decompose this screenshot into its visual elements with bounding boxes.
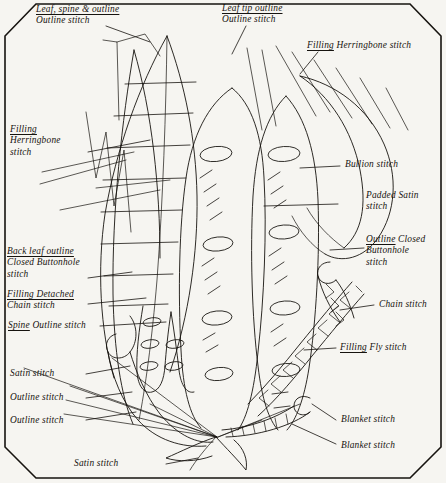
label-filling-detached-chain: Filling Detached Chain stitch [7,289,74,312]
label-fhr-word-filling: Filling [307,40,334,50]
label-ocb-line1: Outline Closed [366,234,425,245]
label-outline-closed-buttonhole: Outline Closed Buttonhole stitch [366,234,425,268]
label-ocb-line3: stitch [366,257,425,268]
bullion-leaf-b [252,96,319,430]
label-outline-left-1: Outline stitch [10,392,64,403]
label-fdc-line1: Filling Detached [7,289,74,300]
label-filling-herringbone-left: Filling Herringbone stitch [10,124,61,158]
label-blanket-lower: Blanket stitch [341,440,395,451]
label-so-word-spine: Spine [8,320,30,330]
label-blanket-upper-text: Blanket stitch [341,414,395,425]
detached-chain-leaflet [137,306,194,392]
label-ff-word-rest: Fly stitch [369,342,406,352]
label-padded-satin-line1: Padded Satin [366,190,419,201]
label-satin-bottom-text: Satin stitch [74,458,118,469]
bullion-leaf-a [179,88,265,430]
label-leaf-spine-outline-line1: Leaf, spine & outline [36,4,119,15]
label-outline-left-1-text: Outline stitch [10,392,64,403]
label-fhl-line1: Filling [10,124,61,135]
herringbone-filling-left [40,152,170,210]
label-leaf-tip-outline-line1: Leaf tip outline [222,3,283,14]
label-blanket-lower-text: Blanket stitch [341,440,395,451]
label-leaf-tip-outline: Leaf tip outline Outline stitch [222,3,283,26]
label-filling-herringbone-right-text: Filling Herringbone stitch [307,40,411,51]
label-leaf-spine-outline: Leaf, spine & outline Outline stitch [36,4,119,27]
label-bullion-stitch-text: Bullion stitch [345,159,398,170]
blanket-stitch-curl [222,396,310,437]
label-fhr-word-rest: Herringbone stitch [336,40,411,50]
label-back-leaf-outline: Back leaf outline Closed Buttonhole stit… [7,246,80,280]
label-ocb-word-closed: Closed [398,234,425,244]
base-calyx [24,358,300,470]
label-satin-left: Satin stitch [10,368,54,379]
label-filling-fly-text: Filling Fly stitch [340,342,407,353]
back-leaf-left [101,36,197,420]
label-spine-outline: Spine Outline stitch [8,320,86,331]
diagram-sheet: .s{fill:none;stroke:#16130f;stroke-width… [0,0,446,483]
label-so-word-rest: Outline stitch [32,320,86,330]
label-satin-bottom: Satin stitch [74,458,118,469]
stitch-marks-leaf-b [268,145,301,408]
label-chain-stitch: Chain stitch [379,299,427,310]
label-blo-line2: Closed Buttonhole [7,257,80,268]
label-blanket-upper: Blanket stitch [341,414,395,425]
label-bullion-stitch: Bullion stitch [345,159,398,170]
label-outline-left-2: Outline stitch [10,415,64,426]
label-chain-stitch-text: Chain stitch [379,299,427,310]
label-outline-left-2-text: Outline stitch [10,415,64,426]
label-blo-line1: Back leaf outline [7,246,80,257]
label-filling-herringbone-right: Filling Herringbone stitch [307,40,411,51]
label-ocb-line2: Buttonhole [366,245,425,256]
label-spine-outline-text: Spine Outline stitch [8,320,86,331]
label-fhl-line2: Herringbone [10,135,61,146]
label-fdc-line2: Chain stitch [7,300,74,311]
label-satin-left-text: Satin stitch [10,368,54,379]
label-leaf-spine-outline-line2: Outline stitch [36,15,119,26]
stitch-marks-leaf-a [199,145,233,382]
leader-lines [86,26,374,464]
label-fhl-line3: stitch [10,147,61,158]
label-filling-fly: Filling Fly stitch [340,342,407,353]
label-blo-line3: stitch [7,269,80,280]
label-padded-satin-line2: stitch [366,201,419,212]
label-ff-word-filling: Filling [340,342,367,352]
chain-ovals [140,317,185,372]
left-curled-tendril [106,316,213,446]
label-padded-satin: Padded Satin stitch [366,190,419,213]
label-ocb-word-outline: Outline [366,234,396,244]
label-leaf-tip-outline-line2: Outline stitch [222,14,283,25]
